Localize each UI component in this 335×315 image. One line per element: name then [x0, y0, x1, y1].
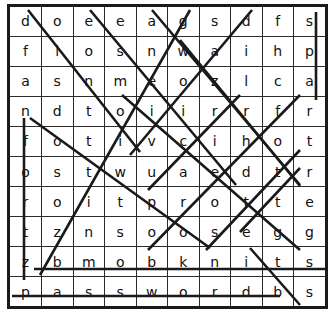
grid-cell[interactable]: e — [136, 66, 168, 96]
grid-cell[interactable]: i — [73, 187, 105, 217]
grid-cell[interactable]: o — [262, 126, 294, 156]
grid-cell[interactable]: a — [42, 277, 74, 306]
grid-cell[interactable]: r — [294, 96, 326, 126]
grid-cell[interactable]: d — [42, 96, 74, 126]
grid-cell[interactable]: p — [136, 187, 168, 217]
grid-cell[interactable]: f — [10, 126, 42, 156]
grid-cell[interactable]: t — [262, 187, 294, 217]
grid-cell[interactable]: o — [168, 277, 200, 306]
grid-cell[interactable]: o — [199, 187, 231, 217]
grid-cell[interactable]: r — [168, 187, 200, 217]
grid-cell[interactable]: d — [231, 7, 263, 36]
grid-cell[interactable]: r — [294, 156, 326, 186]
grid-cell[interactable]: s — [105, 36, 137, 66]
grid-cell[interactable]: a — [199, 36, 231, 66]
grid-cell[interactable]: e — [231, 217, 263, 247]
grid-cell[interactable]: z — [42, 217, 74, 247]
grid-cell[interactable]: e — [105, 7, 137, 36]
grid-cell[interactable]: s — [42, 156, 74, 186]
grid-cell[interactable]: b — [262, 277, 294, 306]
grid-cell[interactable]: c — [262, 66, 294, 96]
grid-cell[interactable]: t — [10, 217, 42, 247]
grid-cell[interactable]: d — [231, 277, 263, 306]
grid-cell[interactable]: o — [168, 66, 200, 96]
grid-cell[interactable]: h — [262, 36, 294, 66]
grid-cell[interactable]: n — [199, 247, 231, 277]
grid-cell[interactable]: o — [42, 126, 74, 156]
grid-cell[interactable]: e — [73, 7, 105, 36]
grid-cell[interactable]: i — [199, 126, 231, 156]
grid-cell[interactable]: g — [168, 7, 200, 36]
grid-cell[interactable]: a — [10, 66, 42, 96]
grid-cell[interactable]: a — [136, 7, 168, 36]
grid-cell[interactable]: l — [231, 66, 263, 96]
grid-cell[interactable]: s — [42, 66, 74, 96]
grid-cell[interactable]: g — [294, 217, 326, 247]
grid-cell[interactable]: f — [262, 96, 294, 126]
grid-cell[interactable]: z — [199, 66, 231, 96]
grid-cell[interactable]: r — [199, 277, 231, 306]
grid-cell[interactable]: h — [231, 126, 263, 156]
grid-cell[interactable]: o — [73, 36, 105, 66]
grid-cell[interactable]: p — [294, 36, 326, 66]
grid-cell[interactable]: m — [73, 247, 105, 277]
grid-cell[interactable]: i — [42, 36, 74, 66]
grid-cell[interactable]: r — [10, 187, 42, 217]
grid-cell[interactable]: t — [73, 126, 105, 156]
grid-cell[interactable]: w — [136, 277, 168, 306]
grid-cell[interactable]: o — [42, 7, 74, 36]
grid-cell[interactable]: s — [73, 277, 105, 306]
grid-cell[interactable]: f — [262, 7, 294, 36]
grid-cell[interactable]: p — [10, 277, 42, 306]
grid-cell[interactable]: o — [105, 247, 137, 277]
grid-cell[interactable]: w — [105, 156, 137, 186]
grid-cell[interactable]: k — [168, 247, 200, 277]
grid-cell[interactable]: o — [42, 187, 74, 217]
grid-cell[interactable]: i — [105, 126, 137, 156]
grid-cell[interactable]: t — [73, 156, 105, 186]
grid-cell[interactable]: n — [136, 36, 168, 66]
grid-cell[interactable]: n — [10, 96, 42, 126]
grid-cell[interactable]: z — [10, 247, 42, 277]
grid-cell[interactable]: s — [294, 247, 326, 277]
grid-cell[interactable]: b — [42, 247, 74, 277]
grid-cell[interactable]: s — [199, 217, 231, 247]
grid-cell[interactable]: e — [199, 156, 231, 186]
grid-cell[interactable]: a — [294, 66, 326, 96]
grid-cell[interactable]: t — [73, 96, 105, 126]
grid-cell[interactable]: d — [231, 156, 263, 186]
grid-cell[interactable]: s — [294, 7, 326, 36]
grid-cell[interactable]: t — [262, 247, 294, 277]
grid-cell[interactable]: b — [136, 247, 168, 277]
grid-cell[interactable]: s — [199, 7, 231, 36]
grid-cell[interactable]: n — [73, 217, 105, 247]
grid-cell[interactable]: o — [136, 217, 168, 247]
grid-cell[interactable]: a — [168, 156, 200, 186]
grid-cell[interactable]: o — [10, 156, 42, 186]
grid-cell[interactable]: t — [105, 187, 137, 217]
grid-cell[interactable]: o — [105, 96, 137, 126]
grid-cell[interactable]: e — [294, 187, 326, 217]
grid-cell[interactable]: n — [73, 66, 105, 96]
grid-cell[interactable]: t — [294, 126, 326, 156]
grid-cell[interactable]: r — [199, 96, 231, 126]
grid-cell[interactable]: c — [168, 126, 200, 156]
grid-cell[interactable]: d — [10, 7, 42, 36]
grid-cell[interactable]: i — [136, 96, 168, 126]
grid-cell[interactable]: f — [10, 36, 42, 66]
grid-cell[interactable]: u — [136, 156, 168, 186]
grid-cell[interactable]: s — [294, 277, 326, 306]
grid-cell[interactable]: i — [231, 247, 263, 277]
grid-cell[interactable]: s — [105, 217, 137, 247]
grid-cell[interactable]: i — [231, 36, 263, 66]
grid-cell[interactable]: m — [105, 66, 137, 96]
grid-cell[interactable]: r — [231, 96, 263, 126]
grid-cell[interactable]: g — [262, 217, 294, 247]
grid-cell[interactable]: o — [168, 217, 200, 247]
grid-cell[interactable]: t — [262, 156, 294, 186]
grid-cell[interactable]: w — [168, 36, 200, 66]
grid-cell[interactable]: i — [168, 96, 200, 126]
grid-cell[interactable]: s — [105, 277, 137, 306]
grid-cell[interactable]: v — [136, 126, 168, 156]
grid-cell[interactable]: t — [231, 187, 263, 217]
